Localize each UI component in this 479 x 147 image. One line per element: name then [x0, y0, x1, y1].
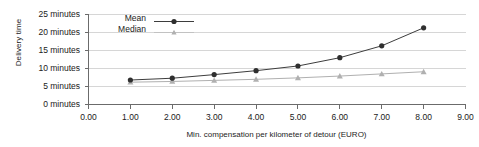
x-axis-tick-label: 1.00	[122, 113, 139, 122]
x-axis-tick-label: 3.00	[206, 113, 223, 122]
x-axis-tick-label: 5.00	[290, 113, 307, 122]
x-axis-tick-label: 2.00	[164, 113, 181, 122]
legend-label-mean: Mean	[104, 14, 146, 23]
chart-legend: Mean Median	[104, 13, 214, 37]
x-axis-tick-label: 4.00	[248, 113, 265, 122]
legend-item-median: Median	[104, 24, 214, 35]
legend-item-mean: Mean	[104, 13, 214, 24]
x-axis-tick-label: 0.00	[80, 113, 97, 122]
triangle-marker	[152, 24, 196, 35]
legend-label-median: Median	[104, 25, 146, 34]
x-axis-tick-labels: 0.001.002.003.004.005.006.007.008.009.00	[0, 0, 479, 147]
delivery-time-line-chart: Delivery time 0 minutes5 minutes10 minut…	[0, 0, 479, 147]
x-axis-title: Min. compensation per kilometer of detou…	[88, 130, 465, 139]
x-axis-tick-label: 6.00	[332, 113, 349, 122]
x-axis-tick-label: 8.00	[415, 113, 432, 122]
x-axis-tick-label: 9.00	[457, 113, 474, 122]
circle-marker	[152, 13, 196, 24]
x-axis-tick-label: 7.00	[373, 113, 390, 122]
